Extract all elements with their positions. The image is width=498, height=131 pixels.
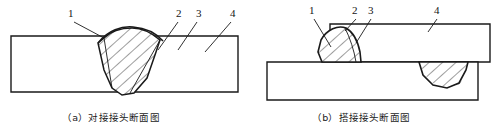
welding-joint-figure: 1 2 3 4 1 2 3 4 （a）对接接头断面图 （b）搭接接头断面图 [0, 0, 498, 131]
panel-a-butt-joint [11, 22, 238, 102]
panel-b-lap-joint [267, 19, 490, 100]
figure-svg [0, 0, 498, 131]
